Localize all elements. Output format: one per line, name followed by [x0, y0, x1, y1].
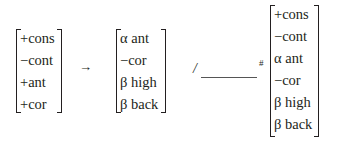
feature-row: −cor [274, 72, 301, 88]
input-feature-matrix: +cons −cont +ant +cor [16, 29, 62, 113]
word-boundary-symbol: # [259, 58, 264, 68]
feature-row: +ant [20, 74, 46, 90]
feature-row: β high [120, 74, 157, 90]
feature-row: α ant [274, 50, 303, 66]
right-bracket [57, 29, 62, 113]
feature-row: −cor [120, 52, 147, 68]
context-feature-matrix: +cons −cont α ant −cor β high β back [270, 5, 319, 137]
right-bracket [314, 5, 319, 137]
feature-row: +cons [274, 6, 309, 22]
feature-row: α ant [120, 30, 149, 46]
feature-row: −cont [20, 52, 53, 68]
feature-row: +cons [20, 30, 55, 46]
environment-slash: / [193, 61, 197, 77]
output-feature-matrix: α ant −cor β high β back [116, 29, 166, 113]
feature-row: −cont [274, 28, 307, 44]
feature-row: +cor [20, 96, 47, 112]
rewrite-arrow-icon: → [79, 59, 92, 75]
right-bracket [161, 29, 166, 113]
feature-row: β back [274, 116, 312, 132]
feature-row: β back [120, 96, 158, 112]
feature-row: β high [274, 94, 311, 110]
focus-blank-line [201, 77, 257, 78]
